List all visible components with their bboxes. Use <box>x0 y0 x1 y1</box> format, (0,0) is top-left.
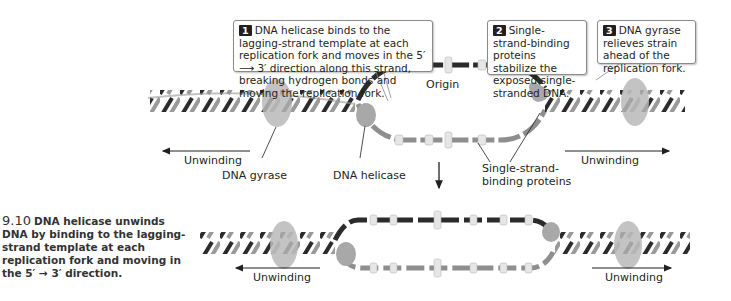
dna-gyrase-label: DNA gyrase <box>222 170 287 182</box>
step-badge-2: 2 <box>493 25 506 36</box>
left-helix-bottom <box>200 232 335 254</box>
step-badge-3: 3 <box>603 25 616 36</box>
bottom-panel <box>200 211 690 277</box>
dna-helicase-left <box>356 103 376 127</box>
callout-1: 1DNA helicase binds to the lagging-stran… <box>233 20 433 72</box>
figure-caption: 9.10DNA helicase unwinds DNA by binding … <box>2 214 192 280</box>
unwinding-label-right-bottom: Unwinding <box>605 272 663 284</box>
step-badge-1: 1 <box>239 25 252 36</box>
ssb-label-line1: Single-strand- <box>482 163 559 175</box>
unwinding-label-left-bottom: Unwinding <box>253 272 311 284</box>
unwinding-label-left-top: Unwinding <box>184 155 242 167</box>
callout-2: 2Single-strand-binding proteins stabiliz… <box>487 20 587 75</box>
callout-3: 3DNA gyrase relieves strain ahead of the… <box>597 20 696 64</box>
dna-gyrase-right <box>621 78 649 126</box>
origin-label: Origin <box>426 79 459 91</box>
figure-number: 9.10 <box>2 213 31 228</box>
dna-helicase-label: DNA helicase <box>333 170 406 182</box>
ssb-label-line2: binding proteins <box>482 176 571 188</box>
unwinding-label-right-top: Unwinding <box>581 155 639 167</box>
